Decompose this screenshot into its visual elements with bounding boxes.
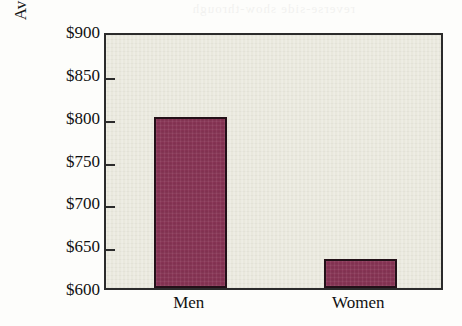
y-axis-tick-labels: $900$850$800$750$700$650$600	[38, 33, 100, 290]
y-axis-tick-label: $750	[38, 152, 100, 172]
y-axis-tick-label: $650	[38, 237, 100, 257]
y-axis-tick-mark	[106, 249, 115, 251]
x-axis-tick-labels: MenWomen	[104, 293, 443, 323]
y-axis-tick-label: $850	[38, 66, 100, 86]
x-axis-tick-label: Men	[173, 293, 204, 313]
y-axis-tick-label: $700	[38, 194, 100, 214]
bar-fill-texture	[326, 261, 395, 286]
scan-bleedthrough-artifact: reverse-side show-through	[105, 1, 355, 21]
bar-women	[324, 259, 397, 288]
y-axis-tick-mark	[106, 206, 115, 208]
bar-fill-texture	[156, 119, 225, 286]
y-axis-title: Average weekly earnings	[6, 0, 36, 63]
y-axis-tick-mark	[106, 121, 115, 123]
y-axis-tick-mark	[106, 164, 115, 166]
y-axis-tick-label: $600	[38, 280, 100, 300]
y-axis-tick-mark	[106, 78, 115, 80]
bar-chart-figure: reverse-side show-through Average weekly…	[0, 0, 462, 326]
plot-area	[104, 33, 443, 290]
bar-men	[154, 117, 227, 288]
y-axis-tick-label: $800	[38, 109, 100, 129]
y-axis-tick-label: $900	[38, 23, 100, 43]
x-axis-tick-label: Women	[332, 293, 384, 313]
